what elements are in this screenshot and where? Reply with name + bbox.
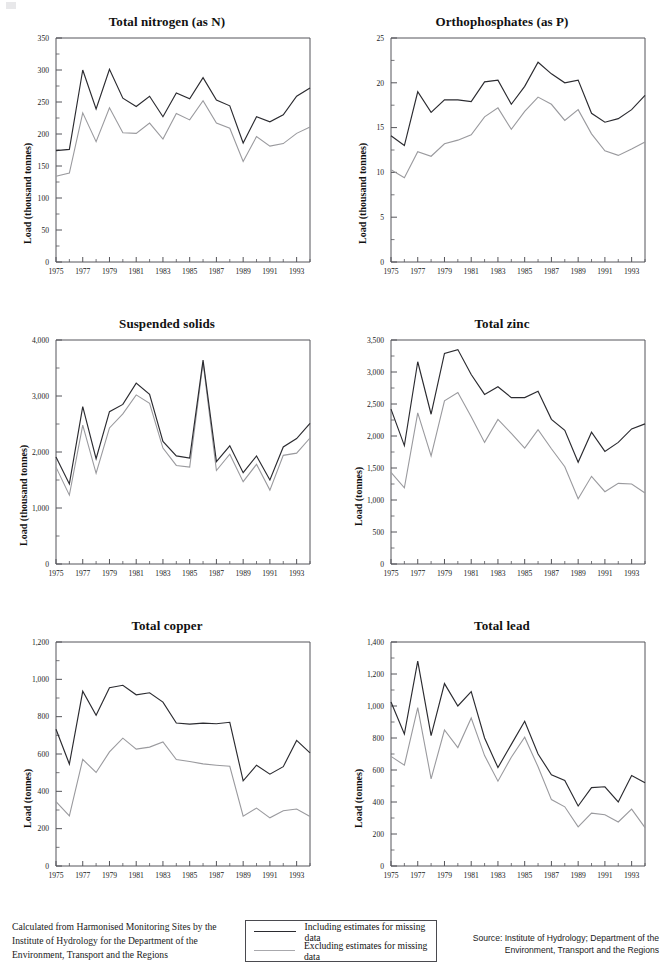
y-tick-label: 3,500 [367, 336, 384, 345]
y-tick-label: 0 [380, 258, 384, 267]
x-tick-label: 1981 [464, 267, 479, 276]
x-tick-label: 1975 [383, 871, 398, 880]
x-tick-label: 1987 [544, 569, 559, 578]
x-tick-label: 1985 [182, 267, 197, 276]
y-tick-label: 1,500 [367, 464, 384, 473]
x-tick-label: 1983 [490, 267, 505, 276]
x-tick-label: 1977 [410, 871, 425, 880]
series-line-including [391, 62, 645, 145]
y-tick-label: 150 [38, 162, 50, 171]
plot-area: 01,0002,0003,0004,0001975197719791981198… [0, 332, 334, 594]
x-tick-label: 1991 [597, 871, 612, 880]
x-tick-label: 1983 [490, 569, 505, 578]
y-tick-label: 1,000 [367, 702, 384, 711]
y-tick-label: 600 [38, 750, 50, 759]
plot-svg: 0510152025197519771979198119831985198719… [335, 30, 669, 292]
x-tick-label: 1989 [571, 569, 586, 578]
x-tick-label: 1991 [597, 267, 612, 276]
legend-line-excluding-icon [254, 950, 295, 951]
y-tick-label: 3,000 [367, 368, 384, 377]
x-tick-label: 1975 [383, 267, 398, 276]
x-tick-label: 1977 [75, 871, 90, 880]
chart-title: Total copper [0, 618, 334, 634]
chart-grid: Total nitrogen (as N) Load (thousand ton… [0, 0, 669, 912]
x-tick-label: 1987 [209, 569, 224, 578]
x-tick-label: 1977 [410, 569, 425, 578]
chart-title: Total zinc [335, 316, 669, 332]
y-tick-label: 4,000 [32, 336, 49, 345]
x-tick-label: 1985 [517, 267, 532, 276]
y-tick-label: 25 [376, 34, 384, 43]
x-tick-label: 1975 [383, 569, 398, 578]
y-tick-label: 800 [38, 712, 50, 721]
x-tick-label: 1979 [437, 267, 452, 276]
y-tick-label: 2,000 [32, 448, 49, 457]
y-tick-label: 300 [38, 66, 50, 75]
x-tick-label: 1983 [155, 569, 170, 578]
x-tick-label: 1989 [571, 267, 586, 276]
x-tick-label: 1979 [437, 871, 452, 880]
y-tick-label: 200 [38, 824, 50, 833]
y-tick-label: 350 [38, 34, 50, 43]
plot-svg: 01,0002,0003,0004,0001975197719791981198… [0, 332, 334, 594]
footer: Calculated from Harmonised Monitoring Si… [0, 912, 669, 975]
legend-item-including: Including estimates for missing data [246, 922, 436, 941]
x-tick-label: 1981 [129, 569, 144, 578]
y-tick-label: 1,200 [367, 670, 384, 679]
x-tick-label: 1975 [48, 267, 63, 276]
y-tick-label: 10 [376, 168, 384, 177]
x-tick-label: 1989 [236, 569, 251, 578]
x-tick-label: 1977 [75, 267, 90, 276]
series-line-including [391, 350, 645, 463]
x-tick-label: 1991 [262, 267, 277, 276]
y-tick-label: 400 [38, 787, 50, 796]
y-tick-label: 100 [38, 194, 50, 203]
x-tick-label: 1987 [209, 871, 224, 880]
x-tick-label: 1987 [544, 871, 559, 880]
calculation-note: Calculated from Harmonised Monitoring Si… [12, 920, 242, 962]
x-tick-label: 1975 [48, 569, 63, 578]
chart-title: Orthophosphates (as P) [335, 14, 669, 30]
plot-area: 0510152025197519771979198119831985198719… [335, 30, 669, 292]
legend-item-excluding: Excluding estimates for missing data [246, 941, 436, 960]
chart-title: Total nitrogen (as N) [0, 14, 334, 30]
y-tick-label: 600 [373, 766, 385, 775]
x-tick-label: 1979 [102, 871, 117, 880]
x-tick-label: 1991 [262, 871, 277, 880]
x-tick-label: 1993 [289, 267, 304, 276]
x-tick-label: 1975 [48, 871, 63, 880]
plot-svg: 0501001502002503003501975197719791981198… [0, 30, 334, 292]
legend-line-including-icon [254, 931, 296, 932]
x-tick-label: 1983 [155, 267, 170, 276]
y-tick-label: 1,000 [32, 504, 49, 513]
x-tick-label: 1983 [490, 871, 505, 880]
x-tick-label: 1993 [289, 569, 304, 578]
x-tick-label: 1981 [464, 569, 479, 578]
y-tick-label: 0 [380, 560, 384, 569]
y-tick-label: 250 [38, 98, 50, 107]
x-tick-label: 1993 [624, 569, 639, 578]
chart-panel-total-copper: Total copper Load (tonnes) 0200400600800… [0, 618, 334, 908]
x-tick-label: 1985 [517, 871, 532, 880]
x-tick-label: 1983 [155, 871, 170, 880]
x-tick-label: 1989 [236, 871, 251, 880]
series-line-excluding [56, 738, 310, 818]
series-line-excluding [56, 101, 310, 177]
chart-panel-total-lead: Total lead Load (tonnes) 02004006008001,… [335, 618, 669, 908]
x-tick-label: 1979 [102, 267, 117, 276]
y-tick-label: 1,000 [32, 675, 49, 684]
x-tick-label: 1993 [624, 267, 639, 276]
x-tick-label: 1979 [437, 569, 452, 578]
y-tick-label: 15 [376, 123, 384, 132]
chart-panel-total-zinc: Total zinc Load (tonnes) 05001,0001,5002… [335, 316, 669, 606]
x-tick-label: 1979 [102, 569, 117, 578]
y-tick-label: 2,000 [367, 432, 384, 441]
y-tick-label: 1,000 [367, 496, 384, 505]
x-tick-label: 1981 [129, 871, 144, 880]
plot-area: 05001,0001,5002,0002,5003,0003,500197519… [335, 332, 669, 594]
plot-svg: 02004006008001,0001,20019751977197919811… [0, 634, 334, 896]
y-tick-label: 0 [380, 862, 384, 871]
chart-panel-suspended-solids: Suspended solids Load (thousand tonnes) … [0, 316, 334, 606]
series-line-including [56, 685, 310, 781]
plot-svg: 02004006008001,0001,2001,400197519771979… [335, 634, 669, 896]
